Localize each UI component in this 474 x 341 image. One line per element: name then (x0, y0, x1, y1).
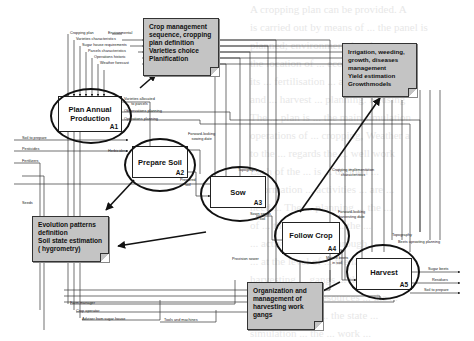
output-label: Residues (432, 278, 448, 283)
mechanism-label: Crop operator (76, 309, 99, 314)
note-fold-icon (314, 321, 323, 330)
note-fold-icon (100, 253, 109, 262)
mechanism-label: Tools and machines (164, 318, 198, 323)
control-label: Operations historic (94, 55, 126, 60)
flow-label: Mature beets in soil (326, 256, 348, 265)
flow-label: Sown seeds in soil (250, 212, 271, 221)
flow-label: Operations planning (124, 117, 158, 122)
output-label: Sugar beets (428, 267, 448, 272)
flow-label: Topography (238, 168, 258, 173)
input-label: Pesticides (22, 147, 39, 152)
flow-label: Prepared soil (180, 178, 196, 187)
note-harvesting-gangs: Organization and management of harvestin… (247, 282, 323, 330)
control-label: Environmental (108, 31, 132, 36)
control-label: Sugar house requirements (82, 43, 127, 48)
note-irrigation-weeding: Irrigation, weeding, growth, diseases ma… (342, 43, 417, 97)
flow-label: Forward-looking harvesting date (338, 210, 365, 219)
note-fold-icon (408, 88, 417, 97)
highlight-ellipse-a1 (50, 88, 132, 144)
control-label: Varieties characteristics (76, 37, 116, 42)
note-crop-management: Crop management sequence, cropping plan … (143, 18, 219, 76)
input-label: Fertilizers (22, 159, 38, 164)
output-label: Soil to prepare (424, 288, 449, 293)
flow-label: Herbicides (108, 149, 126, 154)
flow-label: Provision sower (232, 257, 259, 262)
mechanism-label: Farm manager (70, 301, 95, 306)
input-label: Soil to prepare (22, 136, 47, 141)
control-label: Parcels characteristics (88, 49, 126, 54)
flow-label: Topography (392, 233, 412, 238)
flow-label: Forward-looking sowing date (188, 132, 215, 141)
note-evolution-patterns: Evolution patterns definition Soil state… (32, 216, 109, 262)
flow-label: Beets uprooting planning (398, 240, 440, 245)
note-fold-icon (210, 67, 219, 76)
highlight-ellipse-a5 (346, 244, 420, 300)
flow-label: Observations planning (124, 109, 162, 114)
input-label: Seeds (22, 201, 33, 206)
flow-label: Varieties allocated to parcels (124, 97, 155, 106)
control-label: Weather forecast (100, 61, 129, 66)
mechanism-label: Adviser from sugar house (82, 317, 125, 322)
control-label: Cropping plan (70, 31, 94, 36)
flow-label: Cropping implementation characteristics (332, 168, 374, 177)
